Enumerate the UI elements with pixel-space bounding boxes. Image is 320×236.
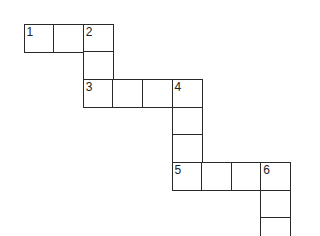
crossword-cell[interactable] <box>231 162 262 191</box>
crossword-cell[interactable] <box>172 107 203 136</box>
clue-number: 3 <box>86 81 93 93</box>
clue-number: 1 <box>27 26 34 38</box>
clue-number: 4 <box>175 81 182 93</box>
crossword-cell[interactable] <box>83 51 114 80</box>
crossword-cell[interactable] <box>260 217 291 236</box>
crossword-cell[interactable]: 6 <box>260 162 291 191</box>
crossword-cell[interactable] <box>142 79 173 108</box>
crossword-cell[interactable]: 5 <box>172 162 203 191</box>
crossword-cell[interactable]: 3 <box>83 79 114 108</box>
crossword-cell[interactable] <box>172 134 203 163</box>
crossword-cell[interactable]: 2 <box>83 24 114 53</box>
crossword-cell[interactable] <box>112 79 143 108</box>
crossword-cell[interactable] <box>201 162 232 191</box>
clue-number: 2 <box>86 26 93 38</box>
clue-number: 6 <box>263 164 270 176</box>
crossword-cell[interactable] <box>260 190 291 219</box>
crossword-cell[interactable]: 4 <box>172 79 203 108</box>
clue-number: 5 <box>175 164 182 176</box>
crossword-cell[interactable]: 1 <box>24 24 55 53</box>
crossword-cell[interactable] <box>53 24 84 53</box>
